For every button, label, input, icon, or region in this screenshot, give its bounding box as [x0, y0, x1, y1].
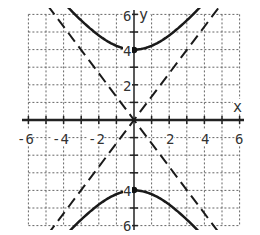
y-axis-label: y [139, 6, 148, 24]
x-tick-label: -6 [17, 131, 34, 147]
x-tick-label: 2 [166, 131, 174, 147]
hyperbola-plot: -6 -4 -2 2 4 6 6 4 2 4 6 y x [0, 0, 260, 235]
y-tick-label: 4 [123, 43, 131, 59]
x-tick-label: 6 [235, 131, 243, 147]
y-tick-label: 4 [123, 183, 131, 199]
x-tick-label: -4 [52, 131, 69, 147]
y-tick-label: 6 [123, 8, 131, 24]
y-tick-label: 6 [123, 218, 131, 234]
y-tick-label: 2 [123, 78, 131, 94]
x-axis-label: x [233, 98, 242, 116]
x-tick-label: 4 [201, 131, 209, 147]
x-tick-label: -2 [88, 131, 105, 147]
